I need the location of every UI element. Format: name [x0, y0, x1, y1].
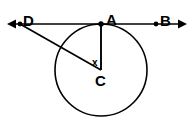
- point-label-b: B: [160, 13, 171, 28]
- right-arrowhead-icon: [178, 20, 187, 29]
- angle-label-x: x: [92, 58, 98, 68]
- point-dot-A: [98, 21, 103, 26]
- segment-DC: [20, 24, 101, 70]
- point-label-a: A: [106, 12, 117, 27]
- point-dot-D: [18, 22, 23, 27]
- point-label-c: C: [95, 73, 106, 88]
- point-dot-B: [154, 22, 159, 27]
- left-arrowhead-icon: [7, 20, 16, 29]
- point-label-d: D: [23, 13, 34, 28]
- geometry-figure: D A B C x: [0, 0, 195, 126]
